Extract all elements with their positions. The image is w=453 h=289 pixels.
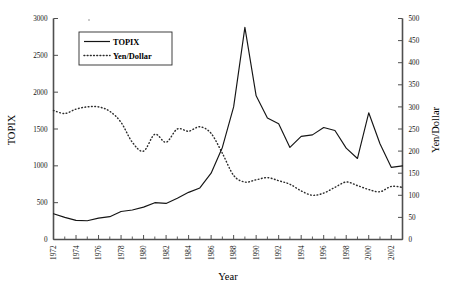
x-tick-label: 1984	[185, 245, 193, 260]
right-tick-label: 100	[409, 192, 420, 200]
x-axis-title: Year	[218, 271, 238, 282]
right-tick-label: 250	[409, 126, 420, 134]
scan-artifact-speck	[88, 19, 90, 21]
right-tick-label: 450	[409, 37, 420, 45]
right-tick-label: 50	[409, 214, 417, 222]
chart-figure: 050010001500200025003000 050100150200250…	[0, 0, 453, 289]
right-tick-label: 300	[409, 104, 420, 112]
right-tick-label: 350	[409, 81, 420, 89]
x-tick-label: 1974	[73, 245, 81, 260]
right-tick-label: 200	[409, 148, 420, 156]
legend-label-yen-dollar: Yen/Dollar	[113, 52, 152, 61]
right-tick-label: 0	[409, 236, 413, 244]
x-tick-label: 1976	[95, 245, 103, 260]
x-tick-label: 1994	[298, 245, 306, 260]
left-tick-label: 2000	[33, 89, 48, 97]
line-chart-canvas: 050010001500200025003000 050100150200250…	[0, 0, 453, 289]
x-tick-label: 1982	[163, 245, 171, 260]
left-tick-label: 2500	[33, 52, 48, 60]
right-tick-label: 150	[409, 170, 420, 178]
right-tick-label: 500	[409, 15, 420, 23]
x-tick-label: 1988	[230, 245, 238, 260]
x-tick-label: 1998	[343, 245, 351, 260]
left-tick-label: 1500	[33, 126, 48, 134]
x-tick-label: 1978	[118, 245, 126, 260]
chart-background	[0, 0, 453, 289]
right-tick-label: 400	[409, 59, 420, 67]
left-tick-label: 3000	[33, 15, 48, 23]
x-tick-label: 1990	[253, 245, 261, 260]
right-axis-title: Yen/Dollar	[430, 106, 441, 153]
legend-label-topix: TOPIX	[113, 38, 139, 47]
left-axis-title: TOPIX	[6, 114, 17, 145]
x-tick-label: 1996	[320, 245, 328, 260]
left-tick-label: 1000	[33, 162, 48, 170]
x-tick-label: 1980	[140, 245, 148, 260]
x-tick-label: 1986	[208, 245, 216, 260]
left-tick-label: 0	[44, 236, 48, 244]
x-tick-label: 1992	[275, 245, 283, 260]
x-tick-label: 1972	[50, 245, 58, 260]
x-tick-label: 2000	[365, 245, 373, 260]
chart-legend: TOPIX Yen/Dollar	[79, 32, 172, 65]
left-tick-label: 500	[37, 199, 48, 207]
x-tick-label: 2002	[388, 245, 396, 260]
